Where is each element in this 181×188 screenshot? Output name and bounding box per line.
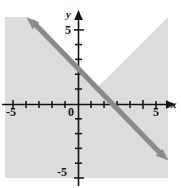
x-tick-label-neg5: -5 bbox=[6, 106, 16, 118]
x-tick-label-5: 5 bbox=[153, 106, 159, 118]
x-axis-label: x bbox=[171, 99, 177, 110]
y-tick-label-neg5: -5 bbox=[57, 166, 67, 178]
coordinate-plane bbox=[0, 0, 181, 188]
y-tick-label-5: 5 bbox=[65, 24, 71, 36]
origin-label: 0 bbox=[68, 106, 74, 118]
graph-figure: y x 5 -5 -5 5 0 bbox=[0, 0, 181, 188]
y-axis-label: y bbox=[66, 9, 71, 20]
